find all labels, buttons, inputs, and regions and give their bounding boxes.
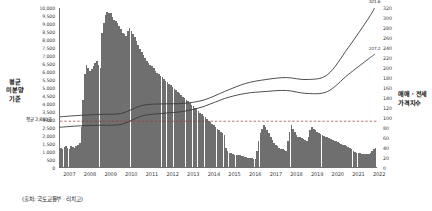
x-axis-tick: 2014 [208, 171, 220, 177]
x-axis-tick: 2020 [332, 171, 344, 177]
average-line-label: 평균 2,880호 [26, 116, 52, 122]
y-axis-left-title-line: 평균 [2, 78, 28, 86]
x-axis-tick: 2008 [84, 171, 96, 177]
y-axis-right-title: 매매 · 전세가격지수 [398, 90, 432, 106]
line-series-layer [60, 8, 377, 167]
y-axis-left-tick: 8,500 [42, 30, 55, 35]
y-axis-left-tick: 5,000 [42, 86, 55, 91]
y-axis-right-title-line: 매매 · 전세 [398, 90, 432, 98]
y-axis-right-tick: 280 [383, 26, 392, 31]
x-axis-tick: 2010 [125, 171, 137, 177]
y-axis-left-tick: 3,500 [42, 110, 55, 115]
y-axis-right-tick: 100 [383, 116, 392, 121]
chart-root: 평균미분양기준 10,0009,5009,0008,5008,0007,5007… [0, 0, 432, 211]
y-axis-left-tick: 500 [47, 158, 55, 163]
y-axis-left-tick: 0 [52, 166, 55, 171]
y-axis-right-tick: 80 [383, 126, 389, 131]
y-axis-left-title: 평균미분양기준 [2, 78, 28, 103]
series1-endpoint-label: 321.6 [369, 0, 381, 4]
x-axis-tick: 2019 [311, 171, 323, 177]
x-axis-tick: 2016 [249, 171, 261, 177]
source-note: (출처: 국토교통부 · 리치고) [22, 195, 83, 203]
y-axis-right-tick: 220 [383, 56, 392, 61]
x-axis-tick: 2013 [187, 171, 199, 177]
y-axis-right-tick: 260 [383, 36, 392, 41]
plot-inner [60, 8, 377, 167]
line-series-jeonse-index [60, 54, 375, 127]
plot-area [59, 8, 377, 168]
y-axis-right-tick: 120 [383, 106, 392, 111]
y-axis-right-tick: 180 [383, 76, 392, 81]
x-axis-tick: 2012 [166, 171, 178, 177]
y-axis-left-title-line: 기준 [2, 95, 28, 103]
x-axis: 2007200820092010201120122013201420152016… [59, 169, 377, 181]
y-axis-right-tick: 240 [383, 46, 392, 51]
y-axis-right-tick: 60 [383, 136, 389, 141]
y-axis-left-tick: 6,000 [42, 70, 55, 75]
x-axis-tick: 2018 [290, 171, 302, 177]
y-axis-right-tick: 200 [383, 66, 392, 71]
y-axis-left-tick: 5,500 [42, 78, 55, 83]
y-axis-right: 매매 · 전세가격지수 3203002802602402202001801601… [377, 0, 432, 176]
y-axis-left-tick: 9,500 [42, 14, 55, 19]
y-axis-left-tick: 7,000 [42, 54, 55, 59]
y-axis-right-tick: 300 [383, 16, 392, 21]
x-axis-tick: 2011 [146, 171, 158, 177]
y-axis-right-tick: 160 [383, 86, 392, 91]
y-axis-left-title-line: 미분양 [2, 86, 28, 94]
x-axis-tick: 2007 [63, 171, 75, 177]
y-axis-left-tick: 4,000 [42, 102, 55, 107]
y-axis-right-tick: 0 [383, 166, 386, 171]
y-axis-right-tick: 140 [383, 96, 392, 101]
x-axis-tick: 2022 [373, 171, 385, 177]
y-axis-left-tick: 2,000 [42, 134, 55, 139]
y-axis-left-tick: 4,500 [42, 94, 55, 99]
x-axis-tick: 2009 [104, 171, 116, 177]
y-axis-right-title-line: 가격지수 [398, 99, 432, 107]
y-axis-left-tick: 1,500 [42, 142, 55, 147]
x-axis-tick: 2021 [352, 171, 364, 177]
y-axis-left-tick: 7,500 [42, 46, 55, 51]
line-series-sale-index [60, 8, 375, 117]
y-axis-left-tick: 10,000 [40, 6, 55, 11]
y-axis-left-tick: 9,000 [42, 22, 55, 27]
x-axis-tick: 2017 [270, 171, 282, 177]
y-axis-left-tick: 6,500 [42, 62, 55, 67]
y-axis-right-tick: 20 [383, 156, 389, 161]
y-axis-left-tick: 2,500 [42, 126, 55, 131]
y-axis-right-tick: 40 [383, 146, 389, 151]
y-axis-left-tick: 8,000 [42, 38, 55, 43]
y-axis-left-tick: 1,000 [42, 150, 55, 155]
series2-endpoint-label: 227.2 [369, 46, 381, 51]
x-axis-tick: 2015 [228, 171, 240, 177]
y-axis-right-tick: 320 [383, 6, 392, 11]
y-axis-left: 평균미분양기준 10,0009,5009,0008,5008,0007,5007… [0, 0, 57, 176]
